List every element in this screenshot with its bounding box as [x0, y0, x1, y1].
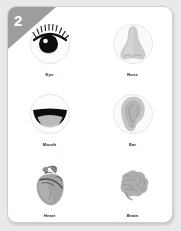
item-label-ear: Ear — [129, 142, 136, 147]
grid-item-brain[interactable]: Brain — [91, 154, 173, 223]
item-label-eye: Eye — [46, 72, 54, 77]
grid-item-nose[interactable]: Nose — [91, 13, 173, 83]
body-parts-grid: Eye Nose — [8, 13, 173, 223]
screenshot-root: 2 — [0, 0, 181, 231]
item-label-mouth: Mouth — [43, 142, 56, 147]
item-label-brain: Brain — [127, 213, 138, 218]
mouth-icon — [25, 89, 75, 139]
brain-icon — [108, 160, 158, 210]
eye-icon — [25, 19, 75, 69]
body-parts-card: 2 — [7, 6, 173, 223]
grid-item-eye[interactable]: Eye — [8, 13, 91, 83]
grid-item-ear[interactable]: Ear — [91, 83, 173, 153]
grid-item-mouth[interactable]: Mouth — [8, 83, 91, 153]
heart-icon — [25, 160, 75, 210]
nose-icon — [108, 19, 158, 69]
grid-item-heart[interactable]: Heart — [8, 154, 91, 223]
item-label-nose: Nose — [127, 72, 138, 77]
item-label-heart: Heart — [44, 213, 56, 218]
ear-icon — [108, 89, 158, 139]
